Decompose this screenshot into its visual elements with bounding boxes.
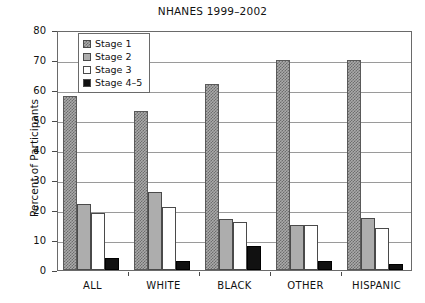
legend-item: Stage 4–5	[83, 76, 142, 89]
legend-item: Stage 1	[83, 37, 142, 50]
bar-group	[342, 32, 413, 270]
bar	[63, 96, 77, 270]
bar	[276, 60, 290, 270]
bar-group	[271, 32, 342, 270]
legend-swatch-icon	[83, 53, 91, 61]
legend-swatch-icon	[83, 40, 91, 48]
y-axis-tick-mark	[52, 271, 57, 272]
chart-title: NHANES 1999–2002	[0, 5, 425, 17]
bar	[318, 261, 332, 270]
bar	[77, 204, 91, 270]
x-axis-category-label: ALL	[57, 280, 128, 291]
bar	[389, 264, 403, 270]
bar-chart: NHANES 1999–2002 Percent of Participants…	[0, 0, 425, 303]
y-axis-tick-label: 80	[0, 26, 46, 36]
legend-swatch-icon	[83, 79, 91, 87]
x-axis-tick-mark	[199, 272, 200, 276]
x-axis-tick-mark	[128, 272, 129, 276]
y-axis-tick-label: 0	[0, 266, 46, 276]
y-axis-tick-label: 70	[0, 56, 46, 66]
x-axis-category-label: BLACK	[199, 280, 270, 291]
x-axis-tick-mark	[270, 272, 271, 276]
bar	[219, 219, 233, 270]
legend-item-label: Stage 4–5	[95, 78, 142, 88]
x-axis-category-label: WHITE	[128, 280, 199, 291]
legend-item: Stage 2	[83, 50, 142, 63]
bar	[205, 84, 219, 270]
bar-group	[200, 32, 271, 270]
bar	[233, 222, 247, 270]
legend-item-label: Stage 3	[95, 65, 132, 75]
y-axis-tick-label: 50	[0, 116, 46, 126]
bar	[162, 207, 176, 270]
y-axis-tick-label: 20	[0, 206, 46, 216]
bar	[347, 60, 361, 270]
bar	[361, 218, 375, 271]
bar	[148, 192, 162, 270]
legend-item-label: Stage 2	[95, 52, 132, 62]
legend-swatch-icon	[83, 66, 91, 74]
y-axis-tick-label: 60	[0, 86, 46, 96]
bar	[290, 225, 304, 270]
y-axis-tick-label: 40	[0, 146, 46, 156]
chart-legend: Stage 1Stage 2Stage 3Stage 4–5	[78, 33, 150, 93]
x-axis-category-label: OTHER	[270, 280, 341, 291]
x-axis-category-label: HISPANIC	[341, 280, 412, 291]
bar	[304, 225, 318, 270]
bar	[91, 213, 105, 270]
legend-item: Stage 3	[83, 63, 142, 76]
bar	[134, 111, 148, 270]
bar	[176, 261, 190, 270]
bar	[247, 246, 261, 270]
y-axis-tick-label: 10	[0, 236, 46, 246]
bar	[105, 258, 119, 270]
x-axis-tick-mark	[341, 272, 342, 276]
y-axis-tick-label: 30	[0, 176, 46, 186]
legend-item-label: Stage 1	[95, 39, 132, 49]
bar	[375, 228, 389, 270]
